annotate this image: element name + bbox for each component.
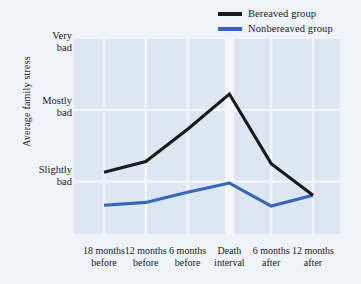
y-axis-ticks: Very bad Mostly bad Slightly bad bbox=[8, 0, 72, 240]
chart-legend: Bereaved group Nonbereaved group bbox=[218, 6, 358, 36]
y-tick-mostly-bad-line2: bad bbox=[10, 107, 72, 119]
legend-label-bereaved: Bereaved group bbox=[248, 8, 316, 19]
y-tick-mostly-bad-line1: Mostly bbox=[10, 95, 72, 107]
legend-item-bereaved: Bereaved group bbox=[218, 6, 358, 21]
x-tick-5: 12 monthsafter bbox=[278, 245, 348, 269]
legend-label-nonbereaved: Nonbereaved group bbox=[248, 23, 333, 34]
x-tick-5-line2: after bbox=[278, 257, 348, 269]
y-tick-slightly-bad: Slightly bad bbox=[10, 164, 72, 187]
y-tick-very-bad-line1: Very bbox=[10, 30, 72, 42]
legend-swatch-nonbereaved bbox=[218, 27, 242, 31]
x-tick-5-line1: 12 months bbox=[278, 245, 348, 257]
y-tick-very-bad-line2: bad bbox=[10, 42, 72, 54]
y-tick-slightly-bad-line1: Slightly bbox=[10, 164, 72, 176]
y-tick-mostly-bad: Mostly bad bbox=[10, 95, 72, 118]
chart-container: Bereaved group Nonbereaved group Average… bbox=[0, 0, 361, 284]
y-tick-slightly-bad-line2: bad bbox=[10, 176, 72, 188]
legend-swatch-bereaved bbox=[218, 12, 242, 16]
legend-item-nonbereaved: Nonbereaved group bbox=[218, 21, 358, 36]
y-tick-very-bad: Very bad bbox=[10, 30, 72, 53]
